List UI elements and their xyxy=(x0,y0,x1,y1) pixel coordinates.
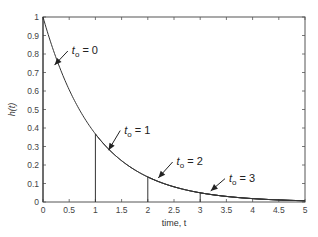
x-tick-label: 0 xyxy=(41,205,46,215)
y-tick-label: 0.4 xyxy=(27,123,39,133)
y-tick-label: 0.9 xyxy=(27,31,39,41)
y-tick-label: 1 xyxy=(34,12,39,22)
x-tick-label: 4 xyxy=(250,205,255,215)
y-tick-label: 0.1 xyxy=(27,179,39,189)
y-tick-label: 0.3 xyxy=(27,142,39,152)
x-tick-label: 2.5 xyxy=(168,205,180,215)
y-tick-label: 0 xyxy=(34,197,39,207)
annotation-label: to = 3 xyxy=(229,172,255,187)
y-tick-label: 0.6 xyxy=(27,86,39,96)
x-tick-label: 1 xyxy=(93,205,98,215)
x-tick-label: 0.5 xyxy=(63,205,75,215)
x-tick-label: 5 xyxy=(303,205,308,215)
chart: 00.511.522.533.544.5500.10.20.30.40.50.6… xyxy=(0,0,318,237)
annotation-label: to = 0 xyxy=(72,44,98,59)
y-tick-label: 0.8 xyxy=(27,49,39,59)
x-tick-label: 4.5 xyxy=(273,205,285,215)
y-tick-label: 0.5 xyxy=(27,105,39,115)
x-tick-label: 1.5 xyxy=(116,205,128,215)
y-axis-label: h(t) xyxy=(7,103,17,117)
x-tick-label: 3.5 xyxy=(220,205,232,215)
arrowhead-icon xyxy=(109,143,115,151)
y-tick-label: 0.2 xyxy=(27,160,39,170)
y-tick-label: 0.7 xyxy=(27,68,39,78)
curve-t02 xyxy=(148,177,305,202)
annotation-label: to = 2 xyxy=(177,155,203,170)
x-axis-label: time, t xyxy=(162,218,187,228)
curve-t01 xyxy=(95,134,305,202)
x-tick-label: 2 xyxy=(145,205,150,215)
x-tick-label: 3 xyxy=(198,205,203,215)
annotation-label: to = 1 xyxy=(124,124,150,139)
